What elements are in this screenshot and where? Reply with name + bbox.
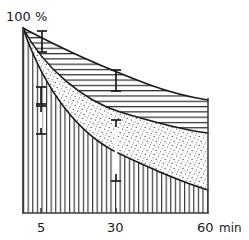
x-axis-unit-label: min bbox=[219, 221, 242, 235]
y-axis-label: 100 % bbox=[6, 9, 47, 24]
x-tick-label-5: 5 bbox=[37, 220, 45, 235]
decay-curve-chart: 100 % 5 30 60 min bbox=[0, 0, 249, 240]
chart-container: 100 % 5 30 60 min bbox=[0, 0, 249, 240]
x-tick-label-30: 30 bbox=[107, 220, 124, 235]
x-tick-label-60: 60 bbox=[197, 220, 214, 235]
